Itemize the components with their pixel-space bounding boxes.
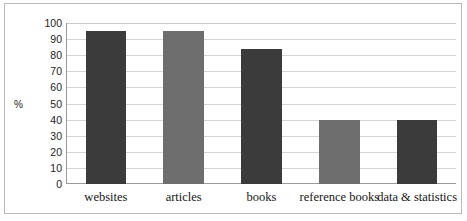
y-axis-tick-100: 100: [28, 18, 62, 28]
y-axis-tick-60: 60: [28, 82, 62, 92]
y-axis-tick-0: 0: [28, 179, 62, 189]
chart-frame: 1009080706050403020100 % websitesarticle…: [4, 3, 462, 214]
y-axis-tick-70: 70: [28, 66, 62, 76]
y-axis-tick-10: 10: [28, 163, 62, 173]
bar-slot: [145, 23, 223, 184]
y-axis-tick-labels: 1009080706050403020100: [25, 23, 62, 184]
bar-slot: [223, 23, 301, 184]
bar-slot: [300, 23, 378, 184]
bar[interactable]: [241, 49, 281, 184]
y-axis-label: %: [14, 99, 23, 110]
bar-slot: [67, 23, 145, 184]
x-axis-tick-labels: websitesarticlesbooksreference booksdata…: [67, 190, 467, 210]
y-axis-tick-30: 30: [28, 131, 62, 141]
bar-slot: [378, 23, 456, 184]
bar[interactable]: [86, 31, 126, 184]
chart-plot-wrapper: 1009080706050403020100 % websitesarticle…: [5, 4, 461, 213]
y-axis-tick-40: 40: [28, 115, 62, 125]
y-axis-tick-20: 20: [28, 147, 62, 157]
bar[interactable]: [319, 120, 359, 184]
bar[interactable]: [163, 31, 203, 184]
bar-series: [67, 23, 456, 184]
bar[interactable]: [397, 120, 437, 184]
y-axis-tick-90: 90: [28, 34, 62, 44]
y-axis-tick-80: 80: [28, 50, 62, 60]
y-axis-tick-50: 50: [28, 99, 62, 109]
x-axis-label-4: data & statistics: [366, 190, 467, 205]
